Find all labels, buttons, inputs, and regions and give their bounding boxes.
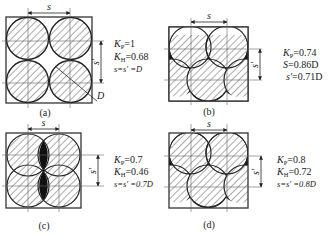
params-a: KP=1 KH=0.68 s=s' =D (113, 38, 149, 74)
svg-text:KP=0.74: KP=0.74 (282, 47, 316, 59)
svg-text:s'=0.71D: s'=0.71D (286, 71, 322, 82)
caption-c: (c) (38, 220, 49, 232)
caption-b: (b) (203, 106, 215, 118)
dim-s-prime-label: s' (87, 167, 98, 174)
dim-d-label: D (96, 90, 105, 101)
svg-text:KP=0.8: KP=0.8 (276, 154, 305, 166)
svg-text:s=s' =0.8D: s=s' =0.8D (277, 179, 317, 189)
dim-s-label: s (47, 1, 51, 12)
panel-c: s s' (c) KP=0.7 KH=0.46 s=s' =0.7D (2, 117, 154, 232)
svg-text:KH=0.68: KH=0.68 (113, 51, 149, 63)
fiber-circles (6, 133, 81, 208)
svg-text:KH=0.46: KH=0.46 (113, 166, 149, 178)
svg-text:S=0.86D: S=0.86D (283, 59, 318, 70)
svg-text:s=s' =0.7D: s=s' =0.7D (114, 179, 154, 189)
fiber-circles (151, 132, 266, 208)
fiber-packing-diagram: s s' D (a) KP=1 KH=0.68 s=s' =D (0, 0, 328, 235)
svg-text:KP=0.7: KP=0.7 (113, 154, 142, 166)
dim-s-prime-label: s' (250, 168, 261, 175)
svg-text:KH=0.72: KH=0.72 (276, 166, 312, 178)
dim-s-prime-label: s' (249, 61, 260, 68)
svg-text:KP=1: KP=1 (113, 38, 135, 50)
params-c: KP=0.7 KH=0.46 s=s' =0.7D (113, 154, 154, 189)
panel-b: s s' (b) KP=0.74 S=0.86D s'=0.71D (151, 10, 322, 118)
dim-s-prime-label: s' (90, 58, 101, 65)
params-b: KP=0.74 S=0.86D s'=0.71D (282, 47, 322, 82)
dim-s-label: s (42, 117, 46, 128)
dim-s-label: s (207, 118, 211, 129)
caption-d: (d) (203, 219, 215, 231)
params-d: KP=0.8 KH=0.72 s=s' =0.8D (276, 154, 317, 189)
svg-text:s=s' =D: s=s' =D (114, 64, 143, 74)
panel-d: s s' (d) KP=0.8 KH=0.72 s=s' =0.8D (151, 118, 317, 231)
panel-a: s s' D (a) KP=1 KH=0.68 s=s' =D (2, 1, 149, 119)
dim-s-label: s (207, 10, 211, 21)
